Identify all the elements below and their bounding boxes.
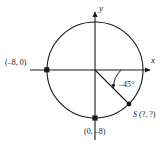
- y-axis-label: y: [99, 4, 103, 13]
- circle-diagram: x y (–8, 0) (0, –8) –45° S (?, ?): [0, 0, 168, 148]
- angle-label: –45°: [119, 81, 134, 89]
- left-intercept-label: (–8, 0): [5, 59, 26, 67]
- point-marker-left-intercept: [44, 67, 49, 72]
- point-s-coordinates: (?, ?): [139, 110, 155, 119]
- point-s-name: S: [133, 110, 137, 119]
- x-axis-label: x: [151, 56, 155, 65]
- diagram-canvas: [0, 0, 168, 148]
- point-s-label: S (?, ?): [133, 111, 155, 119]
- bottom-intercept-label: (0, –8): [84, 128, 105, 136]
- point-marker-s: [127, 102, 132, 107]
- point-marker-bottom-intercept: [92, 115, 97, 120]
